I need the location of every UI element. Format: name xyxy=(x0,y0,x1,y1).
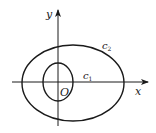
curve-c2-label: c2 xyxy=(102,40,112,52)
y-axis-label: y xyxy=(45,8,53,21)
origin-label: O xyxy=(60,86,69,99)
curve-c1-label: c1 xyxy=(83,70,92,82)
x-axis-label: x xyxy=(135,85,142,98)
coordinate-diagram: y x O c2 c1 xyxy=(0,0,156,133)
